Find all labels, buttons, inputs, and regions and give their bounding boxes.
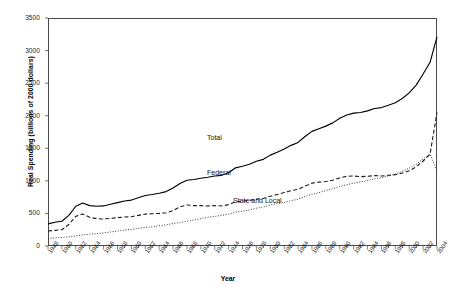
series-line-federal [48, 112, 437, 231]
x-axis-title: Year [0, 275, 456, 282]
series-label-federal: Federal [207, 169, 231, 176]
series-label-total: Total [207, 134, 222, 141]
y-axis-tick-label: 3500 [10, 14, 40, 21]
y-axis-tick-label: 2000 [10, 112, 40, 119]
y-axis-tick-label: 0 [10, 242, 40, 249]
y-axis-tick-label: 500 [10, 209, 40, 216]
y-axis-tick-label: 2500 [10, 79, 40, 86]
y-axis-tick-label: 1500 [10, 144, 40, 151]
series-line-total [48, 37, 437, 224]
chart-container: 0500100015002000250030003500 19481950195… [0, 0, 456, 293]
y-axis-ticks [45, 18, 48, 246]
y-axis-tick-label: 3000 [10, 47, 40, 54]
y-axis-title: Real Spending (billions of 2000 dollars) [27, 37, 34, 207]
y-axis-tick-label: 1000 [10, 177, 40, 184]
series-label-state-and-local: State and Local [233, 197, 282, 204]
